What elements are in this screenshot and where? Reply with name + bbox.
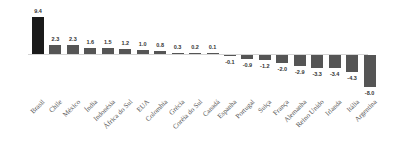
bar-índia [84, 48, 96, 54]
bar-indonésia [102, 48, 114, 54]
value-label: 0.1 [201, 44, 225, 50]
bar-méxico [67, 45, 79, 54]
bar-alemanha [294, 55, 306, 66]
category-label: Suiça [257, 98, 274, 115]
bar-argentina [364, 55, 376, 87]
bar-chile [49, 45, 61, 54]
bar-espanha [224, 55, 236, 56]
category-label: México [61, 98, 82, 119]
bar-coréia-do-sul [189, 53, 201, 54]
bar-grécia [172, 53, 184, 54]
value-label: -8.0 [358, 90, 382, 96]
bar-reino-unido [311, 55, 323, 68]
bar-suiça [259, 55, 271, 60]
bar-eua [137, 50, 149, 54]
bar-portugal [241, 55, 253, 59]
bar-frança [276, 55, 288, 63]
category-label: Brasil [29, 98, 46, 115]
bar-brasil [32, 17, 44, 54]
category-label: Irlanda [324, 98, 344, 118]
bar-irlanda [329, 55, 341, 68]
bar-áfrica-do-sul [119, 49, 131, 54]
value-label: -4.3 [340, 75, 364, 81]
bar-itália [346, 55, 358, 72]
bar-canadá [207, 53, 219, 54]
bar-colombia [154, 51, 166, 54]
value-label: 9.4 [26, 8, 50, 14]
bar-chart: 9.4Brasil2.3Chile2.3México1.6Índia1.5Ind… [0, 0, 403, 149]
